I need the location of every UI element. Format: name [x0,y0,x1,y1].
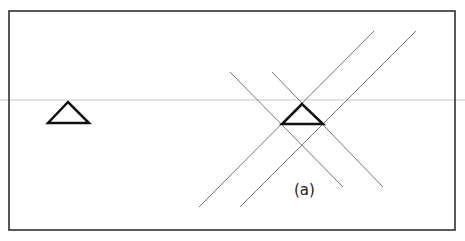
figure-label: (a) [294,181,315,199]
center-triangle [282,104,323,124]
figure-frame [9,11,455,230]
projection-line [272,72,383,187]
projection-line [230,72,343,187]
projection-line [240,31,416,207]
diagram-canvas [0,0,465,241]
left-triangle [48,102,89,123]
